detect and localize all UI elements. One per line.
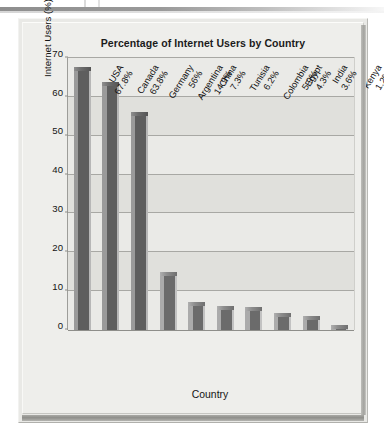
bar-body bbox=[331, 329, 348, 330]
y-tick-mark bbox=[65, 212, 68, 213]
bar-face-main bbox=[250, 311, 261, 330]
y-tick-mark bbox=[65, 57, 68, 58]
bar-body bbox=[188, 306, 205, 330]
bar bbox=[188, 302, 205, 330]
chart-card-inner: Percentage of Internet Users by Country … bbox=[22, 22, 364, 414]
page-edge-marks bbox=[78, 0, 138, 7]
plot-area: 010203040506070 USA67.8%Canada63.8%Germa… bbox=[67, 57, 355, 330]
bar bbox=[217, 306, 234, 330]
bar-face-right bbox=[346, 329, 348, 330]
y-tick-label: 60 bbox=[52, 86, 63, 97]
bar bbox=[331, 325, 348, 330]
bar-face-main bbox=[221, 310, 232, 330]
y-tick-mark bbox=[65, 134, 68, 135]
y-axis-title: Internet Users (%) bbox=[42, 0, 53, 118]
page-top-rule-shadow bbox=[0, 11, 384, 13]
axis-baseline bbox=[68, 330, 354, 331]
bar-face-main bbox=[336, 329, 347, 330]
card-bevel-bottom bbox=[22, 415, 364, 421]
bar bbox=[245, 307, 262, 330]
bar bbox=[303, 316, 320, 330]
bar-face-main bbox=[107, 86, 118, 330]
bar-face-main bbox=[307, 320, 318, 330]
bar-face-main bbox=[135, 116, 146, 330]
y-tick-label: 70 bbox=[52, 47, 63, 58]
bar-body bbox=[131, 116, 148, 330]
bar-face-right bbox=[260, 311, 262, 330]
bar-body bbox=[303, 320, 320, 330]
chart-title: Percentage of Internet Users by Country bbox=[53, 37, 353, 49]
bar-body bbox=[274, 317, 291, 330]
y-tick-mark bbox=[65, 95, 68, 96]
bar-body bbox=[74, 71, 91, 330]
bar-face-right bbox=[232, 310, 234, 330]
x-axis-title: Country bbox=[67, 389, 353, 400]
chart-card: Percentage of Internet Users by Country … bbox=[18, 18, 368, 423]
bar-face-right bbox=[289, 317, 291, 330]
bar-face-right bbox=[89, 71, 91, 330]
y-tick-label: 40 bbox=[52, 164, 63, 175]
bar-face-right bbox=[318, 320, 320, 330]
bar bbox=[74, 67, 91, 330]
y-tick-label: 0 bbox=[58, 319, 63, 330]
bar bbox=[160, 272, 177, 330]
bar-face-right bbox=[117, 86, 119, 330]
y-tick-mark bbox=[65, 290, 68, 291]
card-bevel-right bbox=[361, 25, 366, 415]
chart-page: Percentage of Internet Users by Country … bbox=[0, 0, 384, 447]
bar-face-main bbox=[278, 317, 289, 330]
y-tick-label: 50 bbox=[52, 125, 63, 136]
bar-face-main bbox=[193, 306, 204, 330]
bar-face-right bbox=[175, 276, 177, 330]
y-tick-label: 30 bbox=[52, 203, 63, 214]
bar-body bbox=[217, 310, 234, 330]
bar-face-right bbox=[203, 306, 205, 330]
bar-face-main bbox=[164, 276, 175, 330]
bar-body bbox=[102, 86, 119, 330]
bar-body bbox=[160, 276, 177, 330]
y-tick-mark bbox=[65, 251, 68, 252]
bar-body bbox=[245, 311, 262, 330]
bar bbox=[102, 82, 119, 330]
y-tick-label: 20 bbox=[52, 242, 63, 253]
bar bbox=[131, 112, 148, 330]
bar-face-right bbox=[146, 116, 148, 330]
y-tick-mark bbox=[65, 329, 68, 330]
y-tick-mark bbox=[65, 173, 68, 174]
y-tick-label: 10 bbox=[52, 280, 63, 291]
gridline bbox=[68, 57, 354, 58]
bar-face-main bbox=[78, 71, 89, 330]
bar bbox=[274, 313, 291, 330]
